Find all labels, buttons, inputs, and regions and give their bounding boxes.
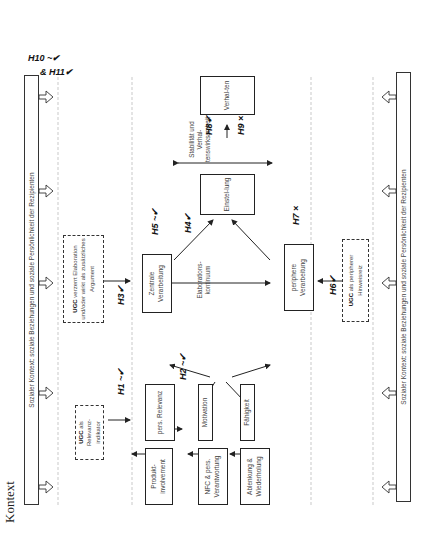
box-produktinvolvement: Produkt-involvement [145,448,173,505]
hypothesis-h6: H6✔ [328,275,338,295]
ugc-relevance-box: UGC als Relevanz-indikator [75,405,104,460]
box-nfc-verantwortung: NFC & pers. Verantwortung [198,448,228,505]
hypothesis-h7: H7 × [291,206,301,225]
hypothesis-h5: H5 ~✔ [150,208,160,235]
label-elaborationskontinuum: Elaborations-kontinuum [196,255,212,305]
box-einstellung: Einstel-lung [200,174,255,215]
box-motivation: Motivation [198,384,213,441]
hypothesis-h1: H1 ~✔ [116,368,126,395]
ugc-peripheral-text: als peripherer Hinweisreiz [348,255,362,296]
ugc-label: UGC [72,299,78,312]
hypothesis-h8: H8✔ [204,115,214,135]
box-zentrale-verarbeitung: Zentrale Verarbeitung [142,254,172,313]
box-ablenkung-wiederholung: Ablenkung & Wiederholung [240,448,270,505]
ugc-label: UGC [78,431,84,444]
diagram-canvas: Kontext Sozialer Kontext: soziale Bezieh… [0,0,426,545]
ugc-elaboration-box: UGC verzerrt Elaboration und/oder wirkt … [63,235,104,323]
hypothesis-h3: H3✔ [116,285,126,305]
hypothesis-h9: H9 × [236,116,246,135]
ugc-label: UGC [348,293,354,306]
hypothesis-h2: H2 ~✔ [178,353,188,380]
hypothesis-h4: H4✔ [183,213,193,233]
box-verhalten: Verhal-ten [200,76,255,115]
box-pers-relevanz: pers. Relevanz [145,384,175,441]
ugc-peripheral-box: UGC als peripherer Hinweisreiz [342,239,369,322]
box-periphere-verarbeitung: periphere Verarbeitung [284,244,314,311]
box-faehigkeit: Fähigkeit [240,384,255,441]
